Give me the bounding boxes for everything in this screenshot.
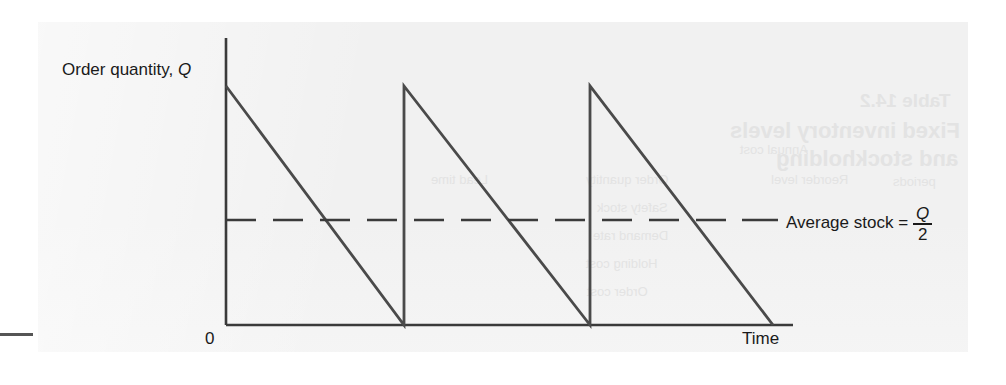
y-axis-label-text: Order quantity, bbox=[62, 60, 178, 79]
legend-fraction: Q2 bbox=[913, 205, 932, 244]
origin-label: 0 bbox=[205, 329, 214, 349]
legend-fraction-denominator: 2 bbox=[918, 225, 927, 243]
legend-label: Average stock = Q2 bbox=[786, 204, 932, 243]
figure-page: Table 14.2 Fixed inventory levels and st… bbox=[0, 0, 1006, 385]
legend-label-text: Average stock = bbox=[786, 213, 908, 233]
inventory-sawtooth-chart bbox=[0, 0, 1006, 385]
y-axis-label-symbol: Q bbox=[178, 60, 191, 79]
inventory-level-series bbox=[226, 86, 773, 325]
y-axis-label: Order quantity, Q bbox=[62, 60, 191, 80]
x-axis-label: Time bbox=[742, 329, 779, 349]
legend-fraction-numerator: Q bbox=[913, 205, 932, 225]
